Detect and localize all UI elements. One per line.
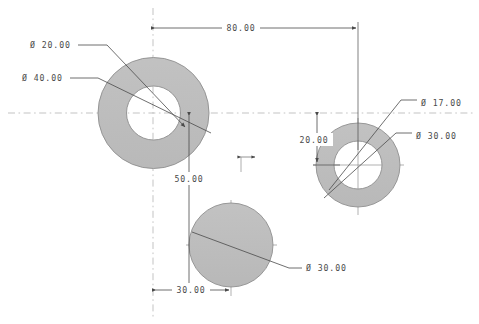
dimension-80-label: 80.00 bbox=[226, 23, 255, 33]
part-geometry bbox=[90, 50, 406, 287]
dimension-50-label: 50.00 bbox=[174, 174, 203, 184]
left-inner-diameter-label: Ø 20.00 bbox=[30, 40, 71, 50]
small-dimension-marker bbox=[241, 157, 255, 172]
bottom-circle bbox=[189, 203, 273, 287]
technical-drawing-canvas: 80.00 50.00 20.00 30.00 Ø bbox=[0, 0, 479, 324]
left-annulus-fill bbox=[90, 50, 220, 180]
dimension-20-label: 20.00 bbox=[299, 135, 328, 145]
right-inner-diameter-label: Ø 17.00 bbox=[421, 98, 462, 108]
bottom-circle-fill bbox=[189, 203, 273, 287]
left-annulus bbox=[90, 50, 220, 180]
bottom-diameter-label: Ø 30.00 bbox=[306, 263, 347, 273]
dimension-30-horizontal-label: 30.00 bbox=[176, 285, 205, 295]
left-outer-diameter-label: Ø 40.00 bbox=[22, 73, 63, 83]
drawing-svg: 80.00 50.00 20.00 30.00 Ø bbox=[0, 0, 479, 324]
right-outer-diameter-label: Ø 30.00 bbox=[416, 131, 457, 141]
